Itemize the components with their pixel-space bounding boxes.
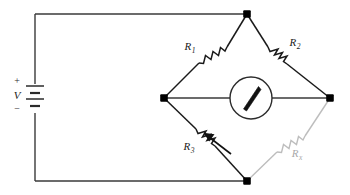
label-r3: R3 [183, 140, 195, 155]
circuit-schematic-canvas: + V − R1 R2 [0, 0, 350, 195]
wire-r2-upper [247, 14, 268, 47]
wire-r2-lower [287, 64, 330, 98]
resistor-zigzag-r3 [196, 129, 215, 146]
label-r1-base: R [184, 40, 192, 52]
polarity-plus-sign: + [14, 75, 20, 86]
resistor-zigzag-r1 [199, 47, 227, 64]
bridge-node-right [326, 94, 334, 102]
label-rx-base: R [291, 147, 299, 159]
label-r3-base: R [183, 140, 191, 152]
wheatstone-bridge-figure: + V − R1 R2 [0, 0, 350, 195]
source-voltage-label: V [14, 89, 22, 101]
wire-r3-upper [164, 98, 196, 129]
wire-rx-upper [305, 98, 330, 136]
wire-r1-upper [227, 14, 247, 47]
polarity-minus-sign: − [14, 103, 20, 114]
dc-voltage-source: + V − [14, 75, 44, 114]
label-r3-subscript: 3 [190, 146, 195, 155]
label-rx-subscript: x [298, 153, 303, 162]
wire-r3-lower [215, 146, 247, 181]
variable-resistor-arrow-r3 [204, 133, 232, 154]
bridge-node-left [160, 94, 168, 102]
wire-r1-lower [164, 63, 199, 98]
label-r2: R2 [289, 36, 301, 51]
label-rx: Rx [291, 147, 303, 162]
label-r1: R1 [184, 40, 196, 55]
label-r2-base: R [289, 36, 297, 48]
galvanometer-branch [164, 77, 330, 119]
resistor-zigzag-r2 [268, 47, 287, 64]
wire-rx-lower [247, 152, 277, 181]
bridge-node-bottom [243, 177, 251, 185]
label-r1-subscript: 1 [192, 46, 196, 55]
label-r2-subscript: 2 [297, 42, 301, 51]
bridge-node-top [243, 10, 251, 18]
